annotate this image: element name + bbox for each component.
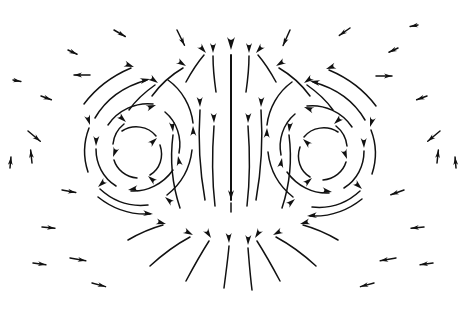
figure-root — [0, 0, 467, 319]
flow-field-diagram — [0, 0, 467, 319]
